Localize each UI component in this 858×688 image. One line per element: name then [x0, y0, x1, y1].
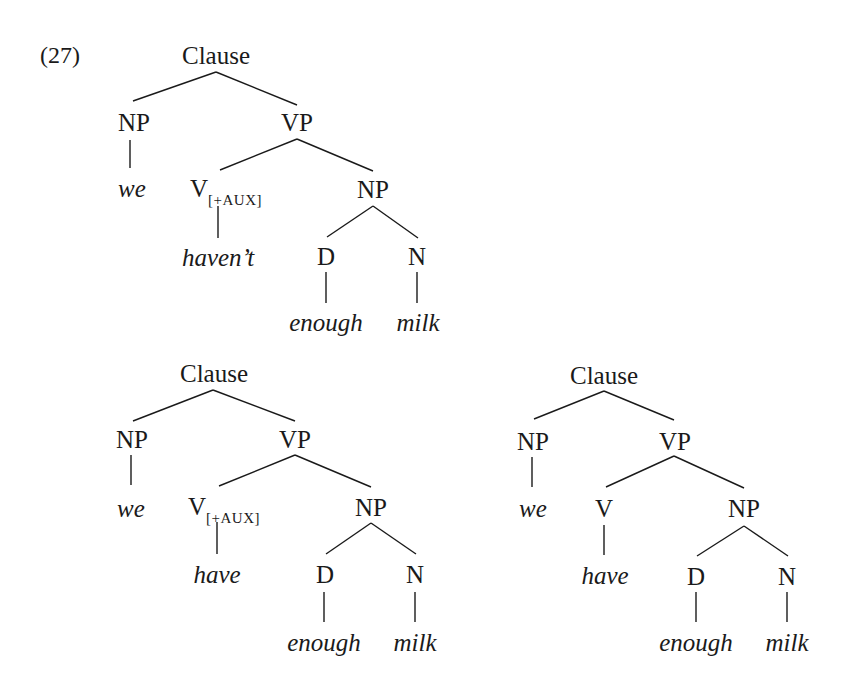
node-d: D [687, 564, 705, 589]
node-clause: Clause [570, 363, 638, 388]
word-milk: milk [393, 630, 436, 655]
word-we: we [117, 496, 145, 521]
word-enough: enough [289, 310, 363, 335]
word-we: we [519, 496, 547, 521]
tree-branches [0, 0, 858, 688]
node-clause: Clause [182, 43, 250, 68]
node-vp: VP [659, 429, 691, 454]
node-n: N [406, 562, 424, 587]
node-vp: VP [281, 110, 313, 135]
word-milk: milk [396, 310, 439, 335]
node-np-object: NP [728, 496, 760, 521]
word-enough: enough [287, 630, 361, 655]
node-v-aux: V[+AUX] [188, 494, 260, 519]
node-np-subject: NP [517, 429, 549, 454]
word-have: have [193, 562, 240, 587]
node-np-subject: NP [116, 427, 148, 452]
word-have: have [581, 563, 628, 588]
node-d: D [317, 244, 335, 269]
word-enough: enough [659, 630, 733, 655]
node-vp: VP [279, 427, 311, 452]
node-n: N [778, 564, 796, 589]
node-v-aux: V[+AUX] [190, 176, 262, 201]
node-np-object: NP [357, 177, 389, 202]
word-we: we [118, 176, 146, 201]
word-havent: haven’t [182, 245, 254, 270]
node-v: V [595, 496, 613, 521]
word-milk: milk [765, 630, 808, 655]
node-np-subject: NP [118, 110, 150, 135]
node-np-object: NP [355, 495, 387, 520]
node-clause: Clause [180, 361, 248, 386]
node-d: D [316, 562, 334, 587]
syntax-tree-figure: (27) [0, 0, 858, 688]
node-n: N [408, 244, 426, 269]
